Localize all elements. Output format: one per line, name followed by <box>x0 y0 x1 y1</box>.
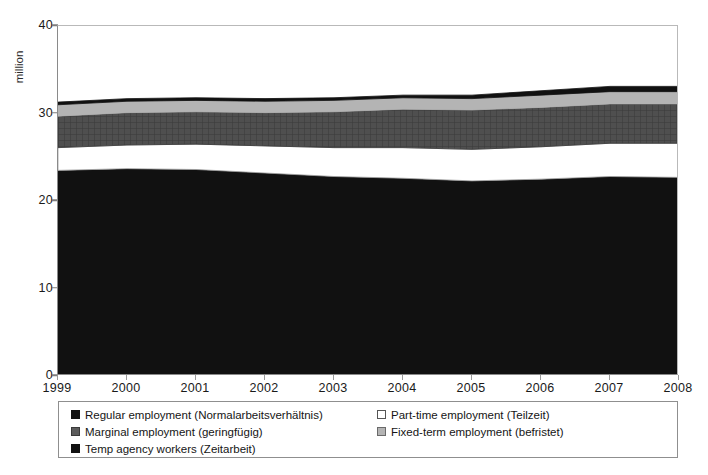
legend-item[interactable]: Part-time employment (Teilzeit) <box>377 406 564 423</box>
x-axis-tick-label: 2003 <box>318 381 347 395</box>
legend-swatch-icon <box>71 444 80 453</box>
x-axis-tick-label: 2008 <box>663 381 692 395</box>
x-axis-tick-label: 2006 <box>525 381 554 395</box>
x-axis-tick-label: 1999 <box>42 381 71 395</box>
x-axis-tick-mark <box>126 375 127 380</box>
stacked-area-svg <box>58 26 678 375</box>
legend-column-left: Regular employment (Normalarbeitsverhält… <box>71 406 323 457</box>
x-axis-tick-label: 2000 <box>111 381 140 395</box>
x-axis-tick-label: 2005 <box>456 381 485 395</box>
y-axis-tick-label: 40 <box>27 18 53 32</box>
legend-item[interactable]: Temp agency workers (Zeitarbeit) <box>71 440 323 457</box>
legend-swatch-icon <box>71 427 80 436</box>
x-axis-tick-mark <box>333 375 334 380</box>
x-axis-tick-label: 2001 <box>180 381 209 395</box>
legend-item-label: Part-time employment (Teilzeit) <box>391 409 549 421</box>
legend-item[interactable]: Marginal employment (geringfügig) <box>71 423 323 440</box>
plot-area <box>57 25 678 375</box>
legend-item[interactable]: Fixed-term employment (befristet) <box>377 423 564 440</box>
y-axis-tick-label: 30 <box>27 106 53 120</box>
x-axis-tick-label: 2007 <box>594 381 623 395</box>
legend-item[interactable]: Regular employment (Normalarbeitsverhält… <box>71 406 323 423</box>
legend-swatch-icon <box>377 427 386 436</box>
y-axis-ticks: 010203040 <box>20 0 53 475</box>
y-axis-tick-label: 20 <box>27 193 53 207</box>
legend-swatch-icon <box>71 410 80 419</box>
x-axis-tick-label: 2002 <box>249 381 278 395</box>
x-axis-tick-mark <box>57 375 58 380</box>
y-axis-tick-label: 10 <box>27 281 53 295</box>
x-axis-tick-label: 2004 <box>387 381 416 395</box>
legend-column-right: Part-time employment (Teilzeit)Fixed-ter… <box>377 406 564 440</box>
legend-item-label: Regular employment (Normalarbeitsverhält… <box>85 409 323 421</box>
x-axis-tick-mark <box>678 375 679 380</box>
x-axis-tick-mark <box>264 375 265 380</box>
x-axis-tick-mark <box>402 375 403 380</box>
x-axis-tick-mark <box>540 375 541 380</box>
x-axis-tick-mark <box>609 375 610 380</box>
area-band <box>58 169 678 375</box>
legend-swatch-icon <box>377 410 386 419</box>
x-axis-tick-mark <box>195 375 196 380</box>
legend-item-label: Fixed-term employment (befristet) <box>391 426 564 438</box>
chart-legend: Regular employment (Normalarbeitsverhält… <box>58 401 678 458</box>
legend-item-label: Temp agency workers (Zeitarbeit) <box>85 443 256 455</box>
chart-root: million 010203040 1999200020012002200320… <box>0 0 708 475</box>
x-axis-tick-mark <box>471 375 472 380</box>
y-axis-tick-label: 0 <box>27 368 53 382</box>
legend-item-label: Marginal employment (geringfügig) <box>85 426 263 438</box>
